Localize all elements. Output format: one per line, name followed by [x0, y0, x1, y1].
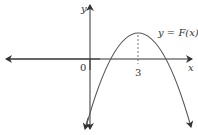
y-axis-label: y [80, 3, 87, 14]
curve-label: y = F(x) [157, 27, 198, 38]
tick-label-3: 3 [135, 67, 141, 78]
parabola-left-arrow [85, 118, 88, 129]
parabola-curve [86, 33, 191, 127]
graph: y x 0 3 y = F(x) [0, 0, 198, 135]
x-axis-label: x [188, 62, 194, 73]
origin-label: 0 [80, 62, 86, 73]
